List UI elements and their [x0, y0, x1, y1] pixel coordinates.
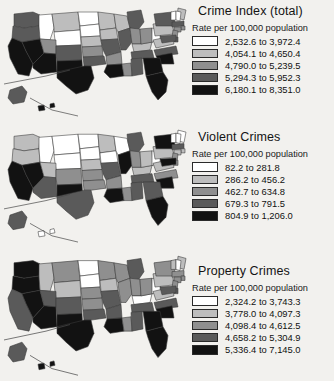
legend-row: 82.2 to 281.8 [192, 161, 293, 173]
state-nh [176, 133, 181, 143]
state-wy [54, 30, 81, 46]
legend-range-label: 4,054.1 to 4,650.4 [225, 48, 301, 59]
legend-range-label: 5,336.4 to 7,145.0 [225, 344, 301, 355]
state-ok [83, 56, 106, 66]
state-nh [176, 260, 181, 271]
legend-swatch [192, 333, 218, 343]
state-il [118, 278, 132, 302]
state-al [131, 182, 143, 201]
legend-row: 2,324.2 to 3,743.3 [192, 295, 301, 307]
legend-subtitle: Rate per 100,000 population [192, 149, 308, 159]
state-fl [146, 327, 168, 358]
state-fl [146, 196, 168, 225]
legend-rows: 2,324.2 to 3,743.33,778.0 to 4,097.34,09… [192, 295, 301, 356]
state-mt [52, 134, 80, 155]
legend-swatch [192, 73, 218, 83]
legend-row: 5,336.4 to 7,145.0 [192, 344, 301, 356]
state-vt [171, 11, 176, 20]
legend-swatch [192, 187, 218, 197]
state-id [39, 14, 54, 40]
us-map-svg-0 [0, 0, 188, 122]
legend-row: 679.3 to 791.5 [192, 198, 293, 210]
legend-row: 5,294.3 to 5,952.3 [192, 72, 301, 84]
state-ks [82, 46, 103, 57]
state-ms [122, 317, 132, 331]
legend-swatch [192, 199, 218, 209]
legend-row: 804.9 to 1,206.0 [192, 210, 293, 222]
state-oh [140, 151, 153, 168]
state-il [118, 151, 132, 174]
state-hi [50, 103, 55, 108]
state-ne [81, 159, 102, 170]
state-in [130, 28, 141, 44]
state-wa [14, 134, 40, 151]
state-in [130, 151, 141, 168]
legend-property-crimes: Property Crimes Rate per 100,000 populat… [190, 248, 334, 381]
state-oh [140, 278, 153, 296]
legend-swatch [192, 345, 218, 355]
legend-range-label: 2,532.6 to 3,972.4 [225, 36, 301, 47]
state-hi [50, 229, 55, 234]
legend-row: 4,054.1 to 4,650.4 [192, 47, 301, 59]
legend-rows: 2,532.6 to 3,972.44,054.1 to 4,650.44,79… [192, 35, 301, 96]
state-sd [80, 147, 100, 160]
choropleth-map-property-crimes [0, 248, 188, 381]
state-id [39, 263, 54, 292]
legend-range-label: 5,294.3 to 5,952.3 [225, 72, 301, 83]
legend-violent-crimes: Violent Crimes Rate per 100,000 populati… [190, 122, 334, 248]
legend-range-label: 4,098.4 to 4,612.5 [225, 320, 301, 331]
state-vt [171, 260, 176, 270]
state-ne [81, 36, 102, 47]
legend-range-label: 4,790.0 to 5,239.5 [225, 60, 301, 71]
legend-range-label: 4,658.2 to 5,304.9 [225, 332, 301, 343]
legend-row: 4,658.2 to 5,304.9 [192, 332, 301, 344]
state-fl [146, 72, 168, 100]
state-ak [8, 86, 27, 104]
state-nd [78, 134, 99, 149]
map-panel-property-crimes: Property Crimes Rate per 100,000 populat… [0, 248, 334, 381]
map-panel-violent-crimes: Violent Crimes Rate per 100,000 populati… [0, 122, 334, 248]
state-hi [50, 361, 55, 367]
legend-subtitle: Rate per 100,000 population [192, 283, 308, 293]
state-in [130, 278, 141, 296]
legend-swatch [192, 49, 218, 59]
legend-range-label: 804.9 to 1,206.0 [225, 210, 293, 221]
state-wy [54, 153, 81, 170]
legend-swatch [192, 321, 218, 331]
legend-row: 3,778.0 to 4,097.3 [192, 307, 301, 319]
us-map-svg-1 [0, 122, 188, 248]
legend-range-label: 82.2 to 281.8 [225, 162, 280, 173]
legend-swatch [192, 61, 218, 71]
legend-row: 286.2 to 456.2 [192, 173, 293, 185]
state-ri [181, 276, 185, 280]
legend-title: Violent Crimes [198, 130, 280, 144]
state-mi [127, 132, 144, 153]
legend-row: 6,180.1 to 8,351.0 [192, 84, 301, 96]
legend-swatch [192, 36, 218, 46]
legend-swatch [192, 309, 218, 319]
legend-range-label: 3,778.0 to 4,097.3 [225, 308, 301, 319]
state-la [104, 318, 124, 333]
legend-range-label: 462.7 to 634.8 [225, 186, 285, 197]
legend-row: 4,098.4 to 4,612.5 [192, 319, 301, 331]
legend-swatch [192, 85, 218, 95]
legend-title: Property Crimes [198, 264, 290, 278]
state-ia [100, 278, 118, 291]
state-wy [54, 280, 81, 298]
state-mn [98, 12, 116, 30]
legend-crime-index: Crime Index (total) Rate per 100,000 pop… [190, 0, 334, 122]
state-nd [78, 261, 99, 276]
state-sd [80, 274, 100, 288]
legend-range-label: 286.2 to 456.2 [225, 174, 285, 185]
state-ia [100, 151, 118, 163]
state-ak [8, 342, 27, 362]
us-map-svg-2 [0, 248, 188, 381]
state-nh [176, 11, 181, 21]
legend-subtitle: Rate per 100,000 population [192, 23, 308, 33]
state-ri [181, 26, 185, 30]
state-la [104, 64, 124, 78]
state-al [131, 58, 143, 76]
state-mi [127, 258, 144, 280]
state-mi [127, 10, 144, 30]
state-ks [82, 298, 103, 310]
